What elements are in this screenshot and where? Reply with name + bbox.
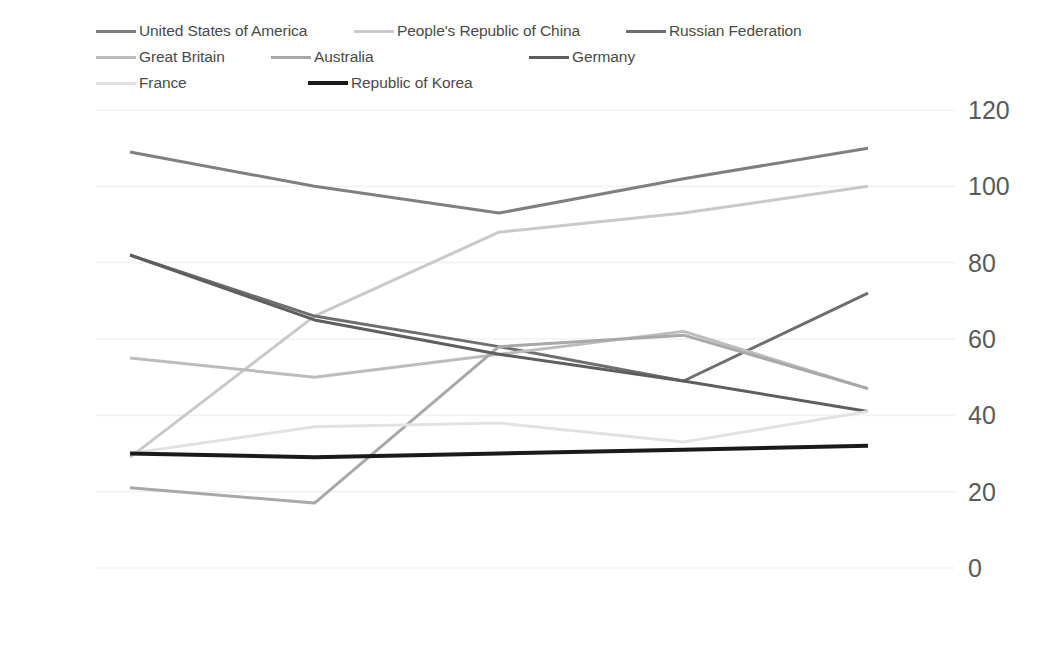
series-line [130, 331, 868, 388]
legend-item[interactable]: Republic of Korea [308, 70, 483, 96]
legend-swatch-icon [96, 56, 136, 59]
y-axis-tick-label: 100 [968, 174, 1038, 199]
legend-item[interactable]: United States of America [96, 18, 354, 44]
legend-label: France [139, 74, 187, 92]
legend-label: Russian Federation [669, 22, 802, 40]
y-axis-tick-label: 80 [968, 250, 1038, 275]
legend-item[interactable]: Germany [529, 44, 801, 70]
legend-swatch-icon [354, 30, 394, 33]
y-axis-tick-label: 20 [968, 479, 1038, 504]
legend-item[interactable]: People's Republic of China [354, 18, 626, 44]
legend-swatch-icon [626, 30, 666, 33]
legend-swatch-icon [271, 56, 311, 59]
legend-label: Germany [572, 48, 635, 66]
series-line [130, 335, 868, 503]
plot-area: 12010080604020019921996200020042008 [0, 100, 1059, 649]
legend-label: People's Republic of China [397, 22, 580, 40]
chart-legend: United States of AmericaPeople's Republi… [96, 18, 956, 96]
y-axis-tick-label: 60 [968, 327, 1038, 352]
legend-label: Republic of Korea [351, 74, 473, 92]
series-line [130, 186, 868, 457]
legend-item[interactable]: Australia [271, 44, 529, 70]
legend-label: United States of America [139, 22, 307, 40]
legend-swatch-icon [529, 56, 569, 59]
legend-item[interactable]: Russian Federation [626, 18, 838, 44]
series-line [130, 446, 868, 457]
line-chart: United States of AmericaPeople's Republi… [0, 0, 1059, 649]
gridlines [96, 110, 955, 568]
series-line [130, 255, 868, 381]
legend-swatch-icon [96, 82, 136, 85]
legend-swatch-icon [308, 81, 348, 85]
plot-svg [0, 100, 1059, 649]
legend-item[interactable]: France [96, 70, 308, 96]
legend-item[interactable]: Great Britain [96, 44, 271, 70]
legend-label: Australia [314, 48, 373, 66]
y-axis-tick-label: 120 [968, 98, 1038, 123]
legend-swatch-icon [96, 30, 136, 33]
y-axis-tick-label: 40 [968, 403, 1038, 428]
legend-label: Great Britain [139, 48, 225, 66]
y-axis-tick-label: 0 [968, 556, 1038, 581]
series-line [130, 255, 868, 411]
